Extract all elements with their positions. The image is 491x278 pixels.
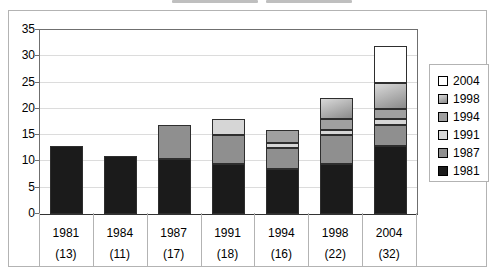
legend-swatch-1987 [438,148,448,158]
category-divider-6 [362,213,363,266]
clipped-title-fragment [172,0,258,3]
y-axis-label-0: 0 [9,207,35,219]
y-axis-tick-10 [35,160,39,161]
gridline-25 [40,82,417,83]
y-axis-tick-20 [35,108,39,109]
y-axis-tick-15 [35,134,39,135]
bar-2004-segment-1981 [374,146,407,214]
legend-label-1991: 1991 [453,128,480,142]
bar-1991-segment-1987 [212,135,245,164]
gridline-20 [40,108,417,109]
legend-swatch-1994 [438,112,448,122]
bar-2004-segment-2004 [374,46,407,83]
legend-swatch-1998 [438,94,448,104]
x-axis-label-count-2004: (32) [362,248,416,261]
category-divider-4 [254,213,255,266]
legend-label-1994: 1994 [453,110,480,124]
legend-label-1998: 1998 [453,92,480,106]
y-axis-tick-5 [35,187,39,188]
legend-label-2004: 2004 [453,74,480,88]
bar-1984-segment-1981 [104,156,137,214]
category-divider-1 [93,213,94,266]
bar-1991-segment-1991 [212,119,245,135]
bar-2004-segment-1991 [374,119,407,124]
y-axis-label-10: 10 [9,154,35,166]
legend-swatch-1981 [438,166,448,176]
y-axis-label-5: 5 [9,181,35,193]
x-axis-label-year-1984: 1984 [93,227,147,240]
legend-label-1987: 1987 [453,146,480,160]
x-axis-label-year-1994: 1994 [254,227,308,240]
bar-1994-segment-1991 [266,143,299,148]
y-axis-label-25: 25 [9,76,35,88]
gridline-30 [40,55,417,56]
x-axis-label-year-1991: 1991 [201,227,255,240]
bar-1994-segment-1981 [266,169,299,214]
category-divider-5 [308,213,309,266]
legend: 200419981994199119871981 [429,64,489,182]
legend-item-1994: 1994 [438,108,488,126]
x-axis-label-count-1987: (17) [147,248,201,261]
y-axis-tick-25 [35,82,39,83]
category-divider-0 [39,213,40,266]
bar-2004-segment-1987 [374,125,407,146]
clipped-chart-title [172,0,354,4]
x-axis-label-year-2004: 2004 [362,227,416,240]
category-divider-2 [147,213,148,266]
legend-item-1987: 1987 [438,144,488,162]
legend-item-1998: 1998 [438,90,488,108]
category-divider-7 [416,213,417,266]
plot-area [39,29,418,215]
legend-swatch-1991 [438,130,448,140]
y-axis-label-35: 35 [9,23,35,35]
x-axis-label-count-1984: (11) [93,248,147,261]
bar-1994-segment-1987 [266,148,299,169]
bar-1987-segment-1981 [158,159,191,214]
y-axis-label-30: 30 [9,49,35,61]
bar-1998-segment-1987 [320,135,353,164]
clipped-title-fragment [266,0,352,3]
bar-1991-segment-1981 [212,164,245,214]
bar-1987-segment-1987 [158,125,191,159]
legend-swatch-2004 [438,76,448,86]
category-divider-3 [201,213,202,266]
bar-1998-segment-1998 [320,98,353,119]
y-axis-tick-30 [35,55,39,56]
legend-item-1981: 1981 [438,162,488,180]
y-axis-tick-35 [35,29,39,30]
x-axis-label-year-1987: 1987 [147,227,201,240]
bar-1994-segment-1994 [266,130,299,143]
legend-label-1981: 1981 [453,164,480,178]
bar-2004-segment-1994 [374,109,407,120]
x-axis-label-count-1981: (13) [39,248,93,261]
x-axis-label-year-1981: 1981 [39,227,93,240]
bar-1998-segment-1981 [320,164,353,214]
legend-item-2004: 2004 [438,72,488,90]
bar-2004-segment-1998 [374,83,407,109]
x-axis-label-year-1998: 1998 [308,227,362,240]
bar-1998-segment-1991 [320,130,353,135]
bar-1981-segment-1981 [50,146,83,214]
x-axis-label-count-1991: (18) [201,248,255,261]
chart-area: 200419981994199119871981 051015202530351… [8,10,487,267]
legend-item-1991: 1991 [438,126,488,144]
x-axis-label-count-1998: (22) [308,248,362,261]
x-axis-label-count-1994: (16) [254,248,308,261]
y-axis-label-15: 15 [9,128,35,140]
bar-1998-segment-1994 [320,119,353,130]
y-axis-label-20: 20 [9,102,35,114]
